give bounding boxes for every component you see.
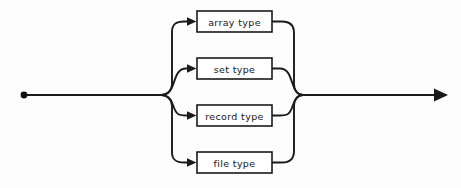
end-arrow-icon xyxy=(434,89,448,102)
fork-branch-record-type xyxy=(161,95,190,116)
start-dot xyxy=(21,92,28,99)
merge-branch-record-type xyxy=(272,95,303,116)
node-box-array-type[interactable] xyxy=(197,11,272,32)
arrow-into-array-type-icon xyxy=(187,17,197,26)
node-box-record-type[interactable] xyxy=(197,105,272,126)
railroad-svg xyxy=(0,0,461,188)
arrow-into-set-type-icon xyxy=(187,64,197,73)
fork-branch-file-type xyxy=(161,95,190,163)
node-box-set-type[interactable] xyxy=(197,58,272,79)
railroad-diagram: array type set type record type file typ… xyxy=(0,0,461,188)
node-box-file-type[interactable] xyxy=(197,152,272,173)
fork-branch-array-type xyxy=(161,22,190,96)
fork-branch-set-type xyxy=(161,69,190,96)
merge-branch-file-type xyxy=(272,95,303,163)
arrow-into-record-type-icon xyxy=(187,111,197,120)
merge-branch-set-type xyxy=(272,69,303,96)
merge-branch-array-type xyxy=(272,22,303,96)
arrow-into-file-type-icon xyxy=(187,158,197,167)
